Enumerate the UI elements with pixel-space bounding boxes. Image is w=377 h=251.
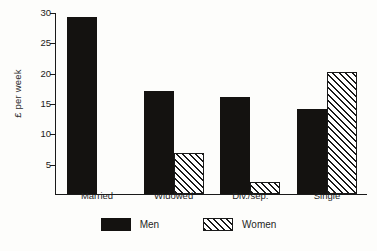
category-label-single: Single xyxy=(279,190,375,201)
tick-label: 30 xyxy=(40,7,51,18)
bar-div-sep-men xyxy=(220,97,250,194)
tick-label: 10 xyxy=(40,128,51,139)
tick-label: 15 xyxy=(40,98,51,109)
chart-legend: MenWomen xyxy=(0,218,377,231)
legend-item-men: Men xyxy=(101,218,159,231)
legend-item-women: Women xyxy=(203,218,276,231)
tick-label: 20 xyxy=(40,68,51,79)
y-axis-line xyxy=(55,13,56,195)
hatched-swatch xyxy=(203,218,233,231)
bar-single-men xyxy=(297,109,327,194)
plot-area: 30252015105 xyxy=(55,13,365,195)
y-axis-label: £ per week xyxy=(12,39,23,149)
bar-widowed-women xyxy=(174,153,204,194)
tick-label: 25 xyxy=(40,37,51,48)
solid-black-swatch xyxy=(101,218,131,231)
bar-chart: £ per week 30252015105 MarriedWidowedDiv… xyxy=(0,0,377,251)
bar-single-women xyxy=(327,72,357,194)
legend-label: Women xyxy=(242,219,276,230)
bar-widowed-men xyxy=(144,91,174,194)
bar-married-men xyxy=(67,17,97,194)
legend-label: Men xyxy=(140,219,159,230)
tick-label: 5 xyxy=(46,159,51,170)
